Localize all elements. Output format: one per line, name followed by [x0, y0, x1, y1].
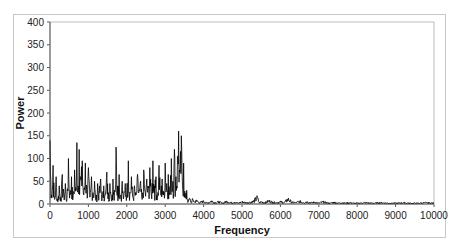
x-tick-label: 9000 — [384, 210, 407, 221]
x-tick-label: 0 — [47, 210, 53, 221]
x-tick-label: 5000 — [231, 210, 254, 221]
x-tick-label: 4000 — [192, 210, 215, 221]
x-tick-label: 7000 — [308, 210, 331, 221]
x-axis-ticks: 0100020003000400050006000700080009000100… — [47, 204, 448, 221]
y-tick-label: 0 — [38, 199, 44, 210]
plot-area — [50, 22, 434, 204]
x-axis-title: Frequency — [214, 224, 271, 236]
x-tick-label: 10000 — [420, 210, 448, 221]
x-tick-label: 2000 — [116, 210, 139, 221]
y-tick-label: 50 — [33, 176, 45, 187]
y-tick-label: 100 — [27, 153, 44, 164]
x-tick-label: 1000 — [77, 210, 100, 221]
power-series-line — [50, 131, 434, 204]
y-axis-title: Power — [14, 96, 26, 130]
y-tick-label: 300 — [27, 62, 44, 73]
y-axis-ticks: 050100150200250300350400 — [27, 17, 50, 210]
x-tick-label: 3000 — [154, 210, 177, 221]
x-tick-label: 6000 — [269, 210, 292, 221]
y-tick-label: 150 — [27, 130, 44, 141]
y-tick-label: 400 — [27, 17, 44, 28]
y-tick-label: 350 — [27, 39, 44, 50]
power-spectrum-chart: 050100150200250300350400 010002000300040… — [0, 0, 458, 252]
y-tick-label: 250 — [27, 85, 44, 96]
x-tick-label: 8000 — [346, 210, 369, 221]
y-tick-label: 200 — [27, 108, 44, 119]
